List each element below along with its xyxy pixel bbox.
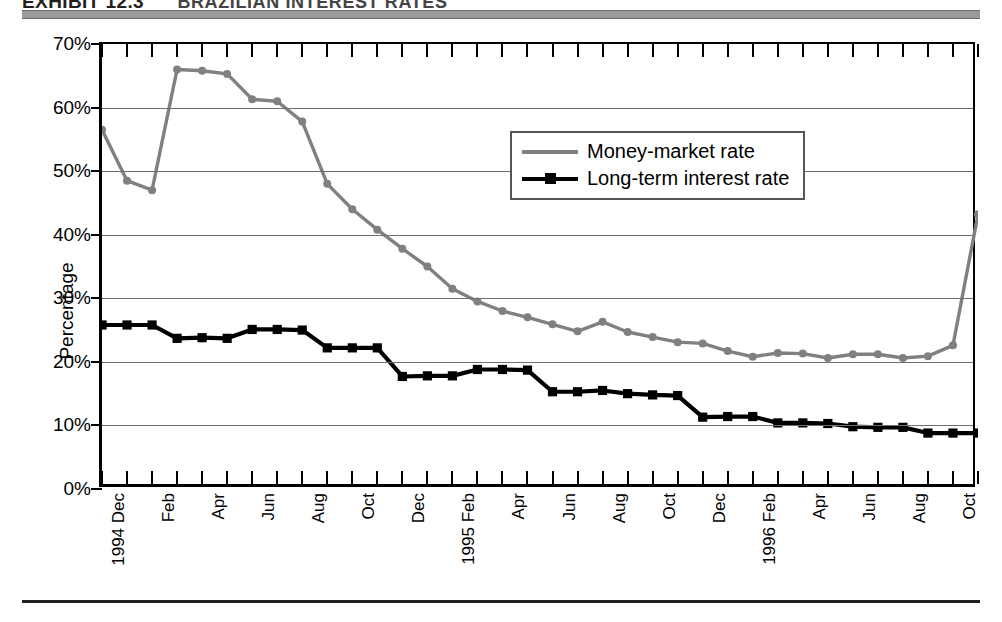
data-point [874, 350, 882, 358]
y-tick [91, 424, 102, 426]
data-point [248, 95, 256, 103]
x-tick-label: Jun [860, 493, 880, 520]
x-tick [151, 44, 153, 57]
x-tick [176, 44, 178, 57]
data-point [598, 386, 607, 395]
data-point [723, 412, 732, 421]
x-tick [126, 471, 128, 484]
data-point [498, 365, 507, 374]
data-point [799, 350, 807, 358]
data-point [649, 333, 657, 341]
data-point [523, 366, 532, 375]
data-point [423, 371, 432, 380]
data-point [448, 285, 456, 293]
x-tick [877, 471, 879, 484]
y-tick [91, 107, 102, 109]
x-tick-label: Aug [910, 493, 930, 523]
data-point [923, 428, 932, 437]
bottom-divider [22, 600, 980, 603]
data-point [599, 318, 607, 326]
x-tick [526, 471, 528, 484]
x-tick [451, 471, 453, 484]
legend-swatch-money-market-rate [522, 143, 578, 161]
x-tick [777, 44, 779, 57]
data-point [102, 320, 107, 329]
x-tick [702, 44, 704, 57]
x-tick [426, 471, 428, 484]
y-tick-label: 70% [53, 33, 91, 55]
x-tick [727, 471, 729, 484]
y-tick [91, 170, 102, 172]
x-tick [677, 44, 679, 57]
x-tick [301, 44, 303, 57]
x-tick [276, 44, 278, 57]
data-point [724, 347, 732, 355]
y-tick [91, 361, 102, 363]
x-tick-label: Feb [159, 493, 179, 522]
data-point [147, 320, 156, 329]
x-tick [176, 471, 178, 484]
x-tick-label: Jun [259, 493, 279, 520]
x-tick [752, 471, 754, 484]
data-point [123, 177, 131, 185]
gridline [102, 425, 973, 426]
x-tick [952, 44, 954, 57]
data-point [648, 390, 657, 399]
data-point [398, 245, 406, 253]
x-tick [827, 471, 829, 484]
data-point [548, 387, 557, 396]
x-tick [852, 471, 854, 484]
data-point [273, 97, 281, 105]
x-tick [101, 44, 103, 57]
x-tick [101, 471, 103, 484]
x-tick [376, 44, 378, 57]
x-tick-label: Aug [309, 493, 329, 523]
x-tick [201, 44, 203, 57]
data-point [298, 325, 307, 334]
x-tick [526, 44, 528, 57]
data-point [749, 353, 757, 361]
y-tick-label: 40% [53, 224, 91, 246]
legend-label: Long-term interest rate [587, 167, 789, 190]
x-tick-label: Oct [960, 493, 980, 519]
data-point [198, 67, 206, 75]
x-tick [652, 471, 654, 484]
x-tick [552, 44, 554, 57]
x-tick [927, 44, 929, 57]
x-tick [727, 44, 729, 57]
x-tick [577, 44, 579, 57]
x-tick [702, 471, 704, 484]
x-tick-label: Jun [560, 493, 580, 520]
series-long-term-interest-rate [102, 320, 978, 437]
gridline [102, 362, 973, 363]
data-point [223, 70, 231, 78]
x-tick [476, 44, 478, 57]
data-point [949, 341, 957, 349]
data-point [373, 343, 382, 352]
gridline [102, 235, 973, 236]
y-tick [91, 488, 102, 490]
x-tick-label: Apr [209, 493, 229, 519]
legend-item: Long-term interest rate [522, 165, 789, 192]
data-point [624, 328, 632, 336]
y-tick-label: 60% [53, 97, 91, 119]
chart-plot-area: 70%60%50%40%30%20%10%0% 1994 DecFebAprJu… [99, 42, 975, 487]
x-tick [827, 44, 829, 57]
x-tick [476, 471, 478, 484]
x-tick-label: Dec [409, 493, 429, 523]
x-tick-label: 1995 Feb [459, 493, 479, 565]
data-point [774, 349, 782, 357]
data-point [273, 325, 282, 334]
data-point [549, 320, 557, 328]
x-tick [927, 471, 929, 484]
data-point [473, 365, 482, 374]
y-axis-title: Percentage [56, 262, 78, 359]
data-point [498, 307, 506, 315]
gridline [102, 298, 973, 299]
series-lines [102, 44, 978, 489]
data-point [102, 126, 106, 134]
x-tick [627, 471, 629, 484]
x-tick [852, 44, 854, 57]
x-tick [501, 471, 503, 484]
y-tick-label: 50% [53, 160, 91, 182]
